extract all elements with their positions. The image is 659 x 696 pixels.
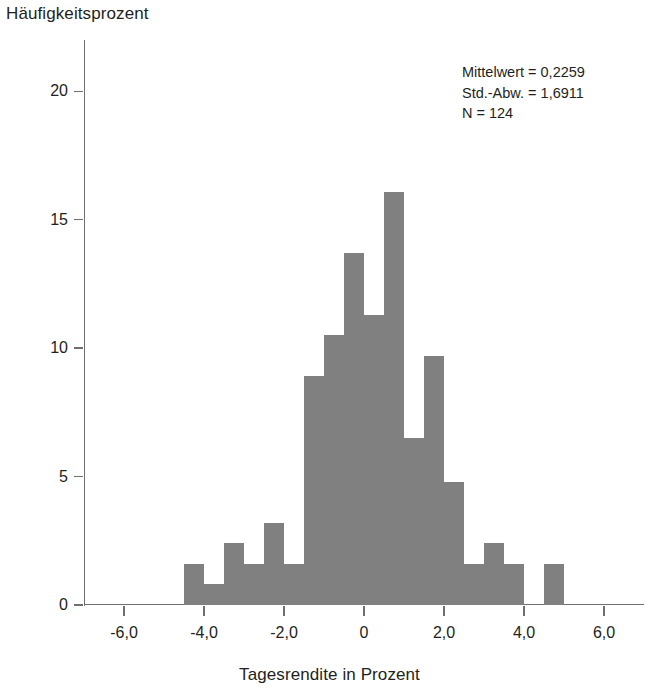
histogram-bar	[544, 564, 564, 605]
histogram-bar	[284, 564, 304, 605]
histogram-bar	[364, 315, 384, 605]
x-axis-tick	[203, 606, 204, 616]
x-axis-tick-label: 2,0	[433, 624, 455, 642]
y-axis-tick-label: 15	[18, 211, 68, 229]
x-axis-tick	[283, 606, 284, 616]
y-axis-tick-label: 20	[18, 82, 68, 100]
histogram-bar	[424, 356, 444, 605]
y-axis-tick-label: 0	[18, 596, 68, 614]
histogram-bar	[444, 482, 464, 605]
y-axis-title: Häufigkeitsprozent	[6, 4, 149, 24]
histogram-chart: Häufigkeitsprozent Mittelwert = 0,2259 S…	[0, 0, 659, 696]
histogram-bar	[184, 564, 204, 605]
x-axis-tick-label: -6,0	[110, 624, 138, 642]
histogram-bar	[224, 543, 244, 605]
histogram-bar	[264, 523, 284, 605]
histogram-bar	[464, 564, 484, 605]
x-axis-tick-label: -2,0	[270, 624, 298, 642]
x-axis-tick-label: 4,0	[513, 624, 535, 642]
y-axis-tick	[74, 219, 83, 220]
y-axis-tick-label: 5	[18, 468, 68, 486]
histogram-bar	[344, 253, 364, 605]
histogram-bar	[504, 564, 524, 605]
bars-container	[84, 40, 644, 605]
y-axis-tick	[74, 91, 83, 92]
x-axis-title: Tagesrendite in Prozent	[0, 665, 659, 685]
x-axis-tick-label: 6,0	[593, 624, 615, 642]
y-axis-tick	[74, 604, 83, 605]
histogram-bar	[204, 584, 224, 605]
histogram-bar	[484, 543, 504, 605]
histogram-bar	[304, 376, 324, 605]
histogram-bar	[324, 335, 344, 605]
x-axis-tick	[363, 606, 364, 616]
histogram-bar	[384, 192, 404, 605]
y-axis-tick	[74, 347, 83, 348]
x-axis-tick-label: -4,0	[190, 624, 218, 642]
x-axis-tick	[523, 606, 524, 616]
histogram-bar	[244, 564, 264, 605]
y-axis-tick	[74, 476, 83, 477]
x-axis-tick	[443, 606, 444, 616]
x-axis-tick	[123, 606, 124, 616]
x-axis-tick	[603, 606, 604, 616]
y-axis-tick-label: 10	[18, 339, 68, 357]
x-axis-tick-label: 0	[360, 624, 369, 642]
histogram-bar	[404, 438, 424, 605]
